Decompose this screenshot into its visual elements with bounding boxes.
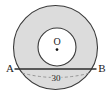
label-point-a: A [6, 62, 14, 74]
geometry-figure: A B O 30 [0, 0, 112, 102]
center-dot [56, 48, 59, 51]
geometry-canvas: A B O 30 [0, 0, 112, 102]
inner-circle [38, 28, 76, 66]
label-point-b: B [98, 62, 105, 74]
label-center-o: O [53, 36, 60, 47]
label-dimension-30: 30 [52, 73, 62, 83]
